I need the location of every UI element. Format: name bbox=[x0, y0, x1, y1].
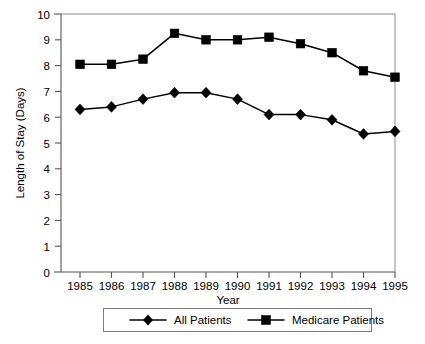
y-tick-labels: 10 9 8 7 6 5 4 3 2 1 0 bbox=[37, 9, 50, 279]
chart-legend: All Patients Medicare Patients bbox=[104, 309, 385, 332]
chart-figure: 10 9 8 7 6 5 4 3 2 1 0 Length of Stay (D… bbox=[0, 0, 425, 344]
x-tick-label-1988: 1988 bbox=[162, 280, 188, 292]
y-axis-title: Length of Stay (Days) bbox=[14, 87, 26, 198]
x-axis bbox=[61, 272, 395, 278]
y-tick-label-9: 9 bbox=[44, 34, 50, 46]
y-tick-label-10: 10 bbox=[37, 9, 50, 21]
legend-square-icon bbox=[262, 316, 271, 325]
x-tick-labels: 1985 1986 1987 1988 1989 1990 1991 1992 … bbox=[67, 280, 408, 292]
data-point-square bbox=[359, 66, 368, 75]
data-point-diamond bbox=[296, 109, 306, 120]
data-point-diamond bbox=[359, 129, 369, 140]
data-point-diamond bbox=[264, 109, 274, 120]
data-point-square bbox=[202, 36, 211, 45]
data-point-diamond bbox=[107, 101, 117, 112]
x-tick-label-1993: 1993 bbox=[319, 280, 345, 292]
data-point-square bbox=[391, 73, 400, 82]
data-point-diamond bbox=[170, 87, 180, 98]
y-tick-label-2: 2 bbox=[44, 215, 50, 227]
x-tick-label-1990: 1990 bbox=[225, 280, 251, 292]
x-tick-label-1992: 1992 bbox=[288, 280, 314, 292]
data-point-diamond bbox=[233, 94, 243, 105]
data-series-layer bbox=[75, 29, 400, 139]
x-tick-label-1995: 1995 bbox=[382, 280, 408, 292]
y-tick-label-7: 7 bbox=[44, 86, 50, 98]
data-point-square bbox=[139, 55, 148, 64]
x-tick-label-1986: 1986 bbox=[99, 280, 125, 292]
data-point-square bbox=[233, 36, 242, 45]
data-point-square bbox=[265, 33, 274, 42]
plot-frame bbox=[61, 14, 395, 272]
y-tick-label-1: 1 bbox=[44, 241, 50, 253]
data-point-diamond bbox=[75, 104, 85, 115]
y-tick-label-3: 3 bbox=[44, 189, 50, 201]
x-tick-label-1991: 1991 bbox=[256, 280, 282, 292]
y-tick-label-8: 8 bbox=[44, 60, 50, 72]
series-medicare-patients bbox=[76, 29, 400, 81]
y-tick-label-0: 0 bbox=[44, 267, 50, 279]
y-tick-label-5: 5 bbox=[44, 138, 50, 150]
data-point-diamond bbox=[138, 94, 148, 105]
y-tick-label-6: 6 bbox=[44, 112, 50, 124]
y-tick-label-4: 4 bbox=[44, 163, 51, 175]
x-tick-label-1989: 1989 bbox=[193, 280, 219, 292]
data-point-diamond bbox=[327, 114, 337, 125]
length-of-stay-line-chart: 10 9 8 7 6 5 4 3 2 1 0 Length of Stay (D… bbox=[0, 0, 425, 344]
x-tick-label-1987: 1987 bbox=[130, 280, 156, 292]
legend-label-medicare-patients: Medicare Patients bbox=[292, 314, 384, 326]
data-point-diamond bbox=[201, 87, 211, 98]
x-tick-label-1985: 1985 bbox=[67, 280, 93, 292]
data-point-square bbox=[296, 39, 305, 48]
series-all-patients bbox=[75, 87, 400, 139]
data-point-square bbox=[107, 60, 116, 69]
data-point-square bbox=[170, 29, 179, 38]
data-point-square bbox=[328, 48, 337, 57]
data-point-diamond bbox=[390, 126, 400, 137]
x-axis-title: Year bbox=[216, 294, 239, 306]
y-axis bbox=[54, 14, 61, 272]
data-point-square bbox=[76, 60, 85, 69]
legend-label-all-patients: All Patients bbox=[174, 314, 232, 326]
x-tick-label-1994: 1994 bbox=[351, 280, 377, 292]
